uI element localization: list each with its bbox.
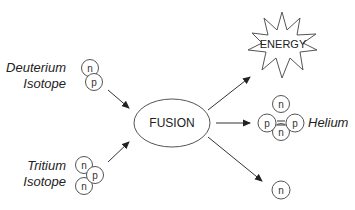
svg-text:Deuterium: Deuterium xyxy=(6,60,66,75)
svg-text:p: p xyxy=(264,118,270,129)
svg-text:n: n xyxy=(278,185,284,196)
svg-text:n: n xyxy=(278,127,284,138)
deuterium-nucleus: n p xyxy=(82,60,103,91)
svg-text:p: p xyxy=(92,170,98,181)
helium-label: Helium xyxy=(308,115,349,130)
helium-nucleus: n n p p xyxy=(258,96,304,141)
svg-text:ENERGY: ENERGY xyxy=(260,38,307,50)
arrow-fusion-to-neutron xyxy=(208,137,262,181)
deuterium-label: Deuterium Isotope xyxy=(6,60,66,91)
energy-starburst: ENERGY xyxy=(248,12,317,78)
tritium-nucleus: n n p xyxy=(76,157,104,195)
svg-text:Isotope: Isotope xyxy=(23,174,66,189)
svg-text:p: p xyxy=(292,118,298,129)
arrow-fusion-to-energy xyxy=(208,77,250,110)
arrow-tritium-to-fusion xyxy=(108,142,129,162)
svg-text:n: n xyxy=(278,99,284,110)
svg-text:n: n xyxy=(87,63,93,74)
arrow-deuterium-to-fusion xyxy=(108,90,129,108)
svg-text:Isotope: Isotope xyxy=(23,76,66,91)
tritium-label: Tritium Isotope xyxy=(23,158,66,189)
svg-text:n: n xyxy=(81,160,87,171)
fusion-node: FUSION xyxy=(134,99,210,147)
fusion-diagram: Deuterium Isotope n p Tritium Isotope n … xyxy=(0,0,355,210)
svg-text:p: p xyxy=(91,77,97,88)
svg-text:FUSION: FUSION xyxy=(149,116,194,130)
svg-text:n: n xyxy=(81,181,87,192)
free-neutron: n xyxy=(272,181,290,199)
svg-text:Tritium: Tritium xyxy=(27,158,66,173)
